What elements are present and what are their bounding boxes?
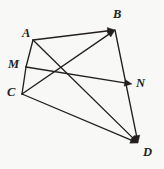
vertex-label-n: N <box>136 77 145 90</box>
geometry-figure: A B C D M N <box>0 0 164 169</box>
vertex-label-m: M <box>8 58 19 71</box>
vector-A-B <box>33 30 111 40</box>
segment-M-C <box>22 67 26 94</box>
segment-A-M <box>26 40 33 67</box>
vertex-label-d: D <box>143 146 152 159</box>
vector-M-N-arrowhead <box>124 79 132 86</box>
vector-C-B-arrowhead <box>107 30 115 37</box>
vertex-label-c: C <box>7 86 15 99</box>
vertex-label-a: A <box>22 27 30 40</box>
vertex-label-b: B <box>113 8 121 21</box>
vector-C-D <box>22 94 134 141</box>
edges-group <box>22 30 137 141</box>
